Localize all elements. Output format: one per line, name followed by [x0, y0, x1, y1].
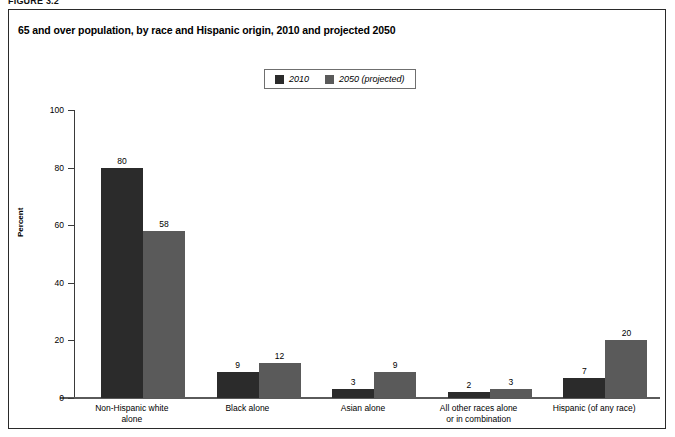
bar-value-label: 80 [117, 156, 126, 166]
bar-group: 8058 [88, 110, 204, 398]
y-axis-title: Percent [16, 208, 25, 237]
legend-swatch-2050 [325, 75, 334, 84]
x-axis-category-label: Non-Hispanic white alone [68, 403, 196, 425]
y-axis-tick [68, 398, 74, 399]
x-axis-category-label: All other races alone or in combination [415, 403, 543, 425]
bar-value-label: 9 [235, 360, 240, 370]
bar-value-label: 7 [582, 366, 587, 376]
bar-value-label: 2 [466, 380, 471, 390]
legend-item-2050: 2050 (projected) [325, 74, 405, 84]
figure-number: FIGURE 3.2 [8, 0, 59, 6]
legend-item-2010: 2010 [275, 74, 309, 84]
x-axis-category-label: Black alone [184, 403, 312, 414]
legend-label-2050: 2050 (projected) [339, 74, 405, 84]
bar: 20 [605, 340, 647, 398]
bar-value-label: 12 [275, 351, 284, 361]
bar: 2 [448, 392, 490, 398]
bar-group: 23 [435, 110, 551, 398]
bar-group: 39 [319, 110, 435, 398]
y-axis-tick-label: 20 [34, 335, 64, 345]
bar: 9 [374, 372, 416, 398]
y-axis-tick-label: 0 [34, 393, 64, 403]
bar-group: 720 [550, 110, 666, 398]
bar-value-label: 9 [393, 360, 398, 370]
bar: 3 [490, 389, 532, 398]
chart-title: 65 and over population, by race and Hisp… [18, 24, 396, 36]
bar-group: 912 [204, 110, 320, 398]
bar: 80 [101, 168, 143, 398]
y-axis-tick-label: 40 [34, 278, 64, 288]
chart-legend: 2010 2050 (projected) [264, 69, 416, 89]
bar-value-label: 58 [159, 219, 168, 229]
y-axis-tick-label: 100 [34, 105, 64, 115]
x-axis-category-label: Hispanic (of any race) [530, 403, 658, 414]
legend-label-2010: 2010 [289, 74, 309, 84]
bar-value-label: 3 [351, 377, 356, 387]
plot-area: 80589123923720 [74, 110, 652, 398]
y-axis-tick-label: 80 [34, 163, 64, 173]
legend-swatch-2010 [275, 75, 284, 84]
bar-value-label: 20 [622, 328, 631, 338]
y-axis-tick-label: 60 [34, 220, 64, 230]
bar: 58 [143, 231, 185, 398]
bar: 7 [563, 378, 605, 398]
bar-value-label: 3 [508, 377, 513, 387]
bar: 3 [332, 389, 374, 398]
bar: 9 [217, 372, 259, 398]
bar: 12 [259, 363, 301, 398]
x-axis-category-label: Asian alone [299, 403, 427, 414]
